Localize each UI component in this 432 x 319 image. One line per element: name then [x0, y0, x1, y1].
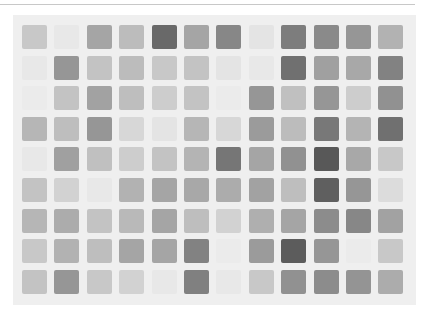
heatmap-cell-r8-c6: [216, 270, 241, 294]
heatmap-cell-r7-c0: [22, 239, 47, 263]
heatmap-cell-r4-c8: [281, 147, 306, 171]
heatmap-cell-r7-c1: [54, 239, 79, 263]
heatmap-cell-r3-c8: [281, 117, 306, 141]
heatmap-cell-r0-c6: [216, 25, 241, 49]
heatmap-cell-r8-c8: [281, 270, 306, 294]
heatmap-cell-r1-c2: [87, 56, 112, 80]
heatmap-cell-r8-c4: [152, 270, 177, 294]
heatmap-cell-r4-c5: [184, 147, 209, 171]
heatmap-cell-r1-c3: [119, 56, 144, 80]
heatmap-cell-r6-c6: [216, 209, 241, 233]
heatmap-cell-r6-c0: [22, 209, 47, 233]
heatmap-cell-r6-c7: [249, 209, 274, 233]
heatmap-cell-r7-c9: [314, 239, 339, 263]
top-divider-line: [0, 4, 415, 5]
heatmap-cell-r1-c11: [378, 56, 403, 80]
swatch-panel: [13, 15, 416, 305]
heatmap-cell-r3-c3: [119, 117, 144, 141]
heatmap-cell-r4-c0: [22, 147, 47, 171]
heatmap-cell-r0-c2: [87, 25, 112, 49]
heatmap-cell-r3-c0: [22, 117, 47, 141]
heatmap-cell-r2-c2: [87, 86, 112, 110]
heatmap-cell-r2-c8: [281, 86, 306, 110]
heatmap-cell-r4-c10: [346, 147, 371, 171]
heatmap-cell-r4-c11: [378, 147, 403, 171]
heatmap-cell-r3-c11: [378, 117, 403, 141]
heatmap-cell-r3-c9: [314, 117, 339, 141]
heatmap-cell-r8-c3: [119, 270, 144, 294]
heatmap-cell-r2-c6: [216, 86, 241, 110]
heatmap-cell-r2-c7: [249, 86, 274, 110]
heatmap-cell-r3-c5: [184, 117, 209, 141]
heatmap-cell-r8-c7: [249, 270, 274, 294]
heatmap-cell-r0-c11: [378, 25, 403, 49]
heatmap-cell-r0-c5: [184, 25, 209, 49]
heatmap-cell-r0-c8: [281, 25, 306, 49]
heatmap-cell-r3-c7: [249, 117, 274, 141]
heatmap-cell-r7-c5: [184, 239, 209, 263]
heatmap-cell-r2-c5: [184, 86, 209, 110]
heatmap-cell-r7-c3: [119, 239, 144, 263]
heatmap-cell-r7-c10: [346, 239, 371, 263]
heatmap-cell-r6-c11: [378, 209, 403, 233]
heatmap-cell-r5-c4: [152, 178, 177, 202]
heatmap-cell-r1-c0: [22, 56, 47, 80]
heatmap-cell-r5-c3: [119, 178, 144, 202]
heatmap-cell-r8-c9: [314, 270, 339, 294]
heatmap-cell-r1-c6: [216, 56, 241, 80]
heatmap-cell-r0-c10: [346, 25, 371, 49]
heatmap-cell-r5-c6: [216, 178, 241, 202]
heatmap-cell-r3-c2: [87, 117, 112, 141]
heatmap-cell-r2-c3: [119, 86, 144, 110]
heatmap-cell-r2-c0: [22, 86, 47, 110]
heatmap-cell-r4-c3: [119, 147, 144, 171]
heatmap-cell-r5-c0: [22, 178, 47, 202]
heatmap-cell-r4-c2: [87, 147, 112, 171]
heatmap-cell-r5-c5: [184, 178, 209, 202]
heatmap-cell-r8-c10: [346, 270, 371, 294]
heatmap-cell-r2-c4: [152, 86, 177, 110]
heatmap-cell-r6-c5: [184, 209, 209, 233]
heatmap-cell-r3-c4: [152, 117, 177, 141]
heatmap-cell-r7-c7: [249, 239, 274, 263]
heatmap-cell-r7-c4: [152, 239, 177, 263]
heatmap-cell-r5-c11: [378, 178, 403, 202]
heatmap-cell-r0-c9: [314, 25, 339, 49]
heatmap-cell-r6-c2: [87, 209, 112, 233]
heatmap-cell-r7-c8: [281, 239, 306, 263]
heatmap-cell-r4-c1: [54, 147, 79, 171]
heatmap-cell-r0-c0: [22, 25, 47, 49]
heatmap-cell-r3-c6: [216, 117, 241, 141]
heatmap-cell-r6-c4: [152, 209, 177, 233]
heatmap-cell-r6-c3: [119, 209, 144, 233]
heatmap-cell-r5-c7: [249, 178, 274, 202]
heatmap-cell-r6-c9: [314, 209, 339, 233]
heatmap-cell-r7-c2: [87, 239, 112, 263]
heatmap-cell-r5-c9: [314, 178, 339, 202]
heatmap-cell-r5-c8: [281, 178, 306, 202]
heatmap-cell-r6-c1: [54, 209, 79, 233]
heatmap-cell-r2-c11: [378, 86, 403, 110]
heatmap-cell-r1-c7: [249, 56, 274, 80]
heatmap-cell-r2-c9: [314, 86, 339, 110]
heatmap-cell-r0-c4: [152, 25, 177, 49]
heatmap-cell-r0-c1: [54, 25, 79, 49]
heatmap-cell-r4-c9: [314, 147, 339, 171]
heatmap-cell-r7-c6: [216, 239, 241, 263]
heatmap-cell-r0-c3: [119, 25, 144, 49]
heatmap-cell-r1-c1: [54, 56, 79, 80]
heatmap-cell-r6-c8: [281, 209, 306, 233]
heatmap-cell-r2-c10: [346, 86, 371, 110]
heatmap-cell-r1-c5: [184, 56, 209, 80]
heatmap-cell-r8-c5: [184, 270, 209, 294]
heatmap-cell-r7-c11: [378, 239, 403, 263]
heatmap-cell-r5-c1: [54, 178, 79, 202]
heatmap-cell-r5-c2: [87, 178, 112, 202]
heatmap-cell-r8-c11: [378, 270, 403, 294]
heatmap-cell-r1-c10: [346, 56, 371, 80]
heatmap-cell-r1-c8: [281, 56, 306, 80]
heatmap-cell-r8-c0: [22, 270, 47, 294]
heatmap-cell-r8-c2: [87, 270, 112, 294]
heatmap-cell-r3-c1: [54, 117, 79, 141]
heatmap-cell-r0-c7: [249, 25, 274, 49]
